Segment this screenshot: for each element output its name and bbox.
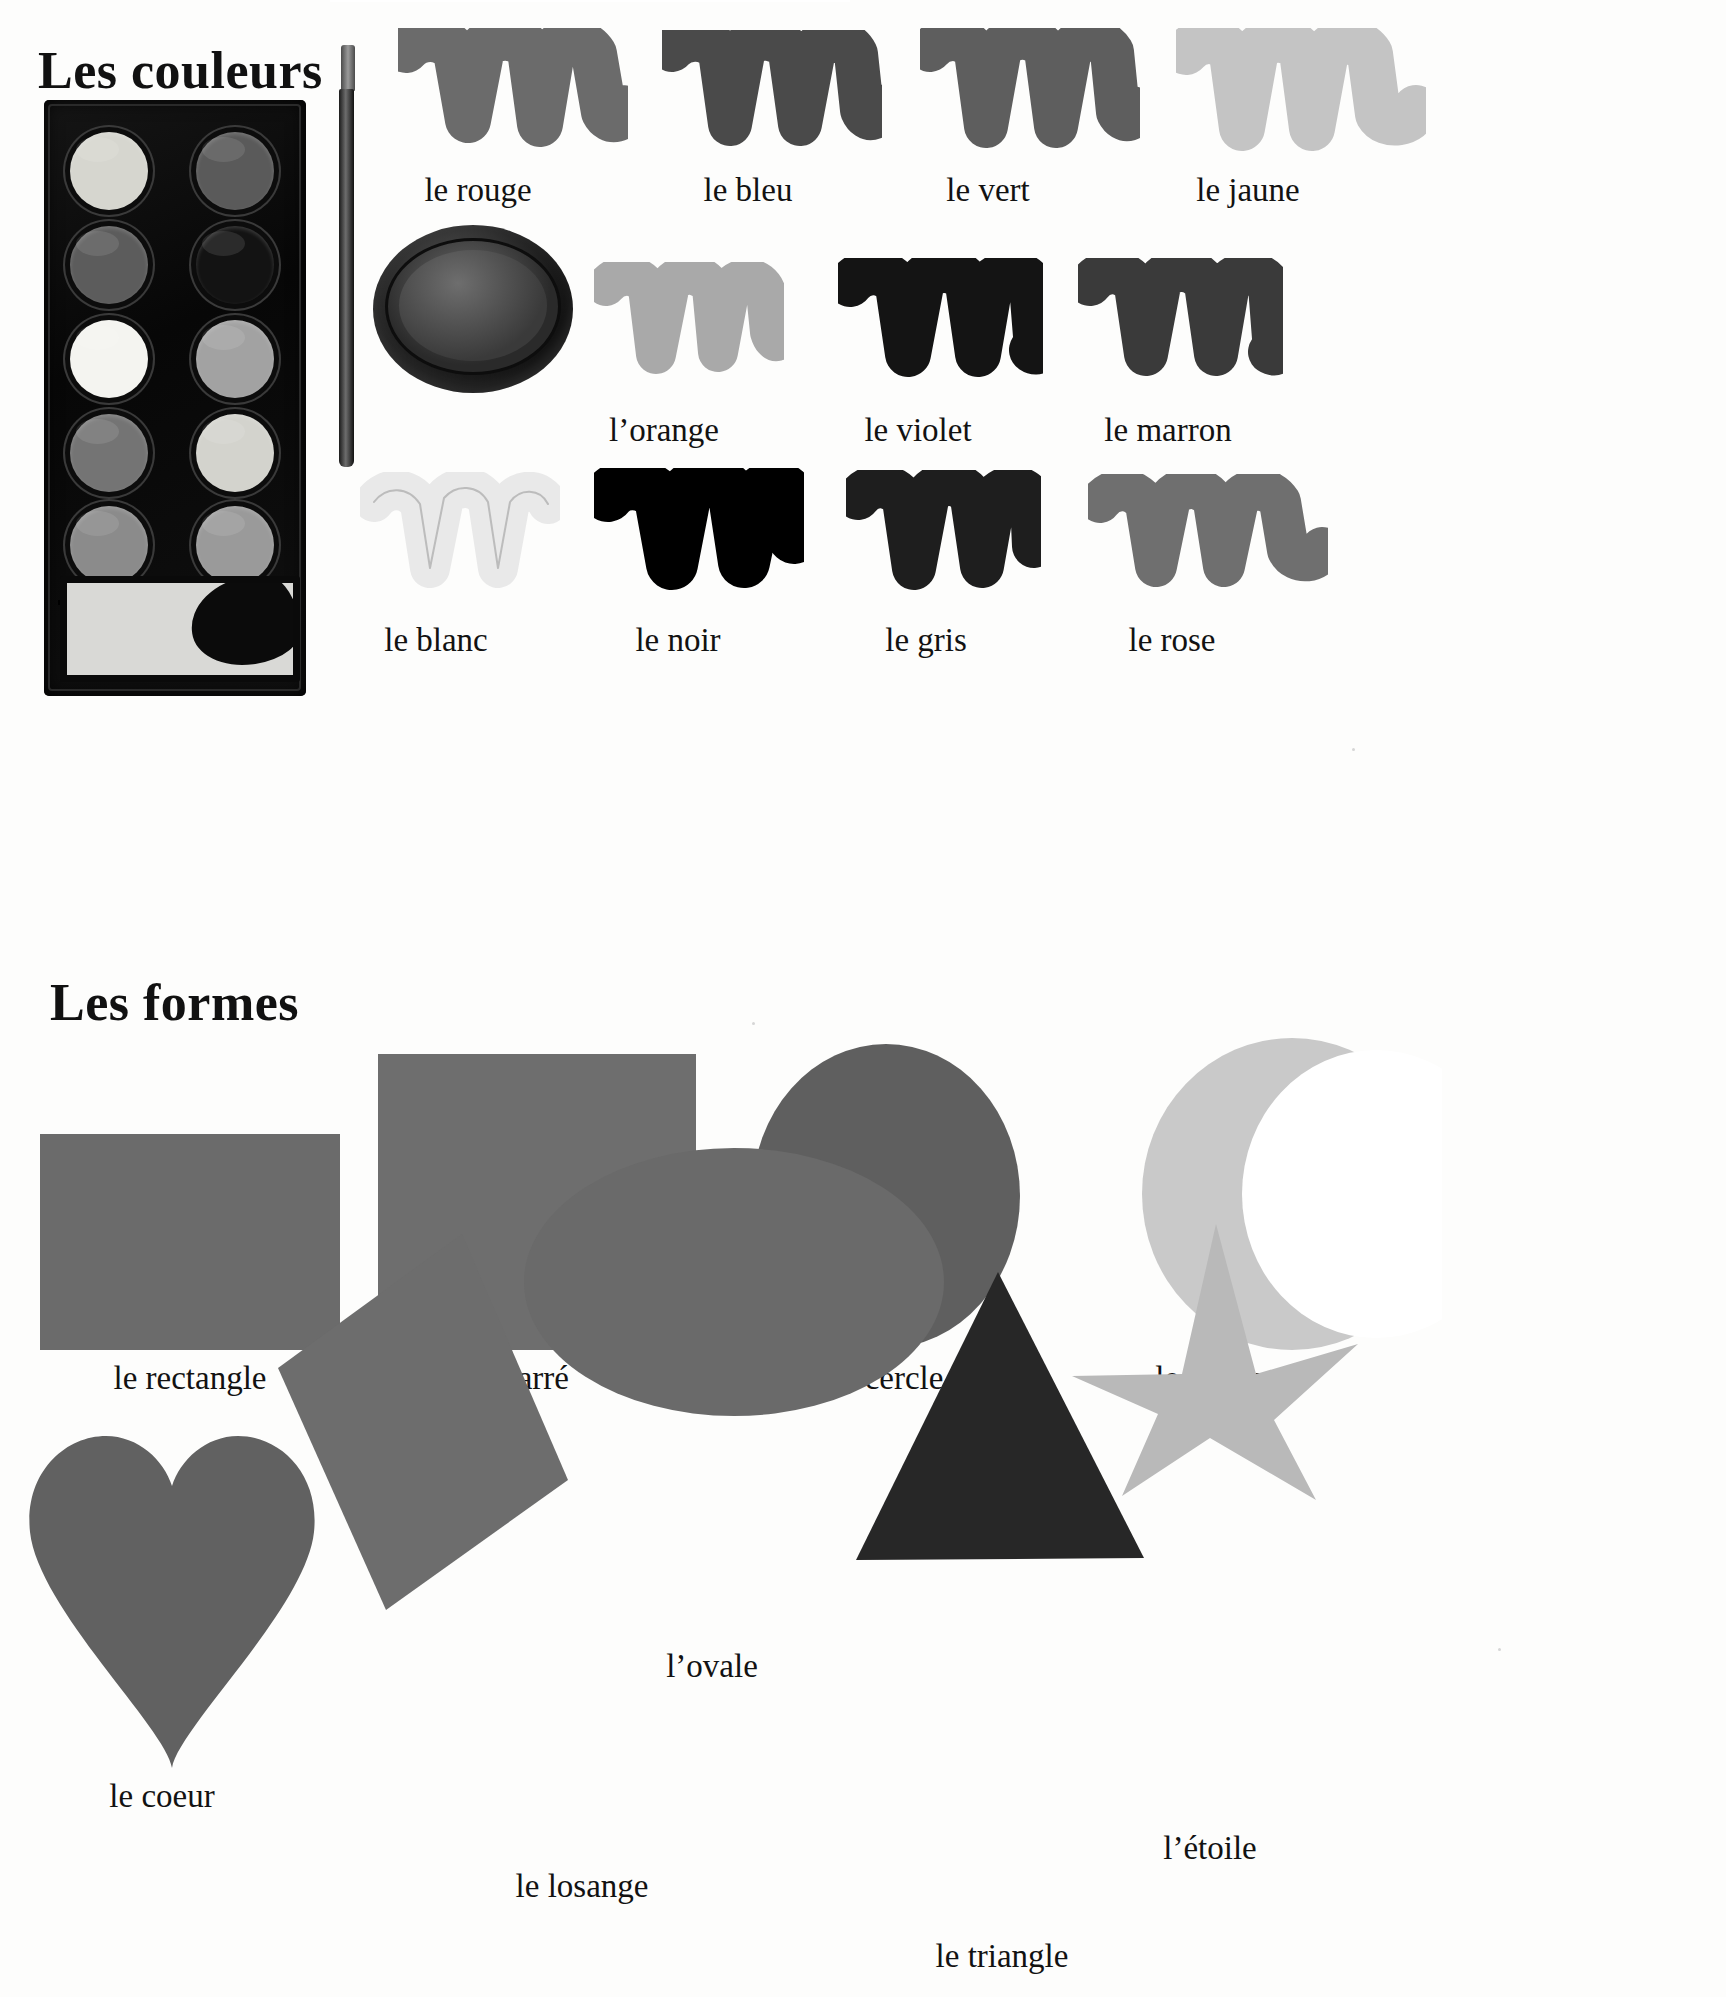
color-label-orange: l’orange [609,412,719,449]
color-swatch-marron [1078,258,1283,406]
scan-speck [1352,748,1355,751]
color-label-jaune: le jaune [1196,172,1300,209]
watercolor-palette [44,100,306,696]
color-swatch-vert [920,28,1140,178]
color-label-bleu: le bleu [704,172,793,209]
paint-pan [70,320,148,398]
paint-pot [373,225,573,393]
paint-pan [70,132,148,210]
section-heading-shapes: Les formes [50,973,299,1032]
paintbrush [330,45,364,465]
shape-star [1070,1224,1362,1504]
color-label-rose: le rose [1128,622,1215,659]
shape-label-losange: le losange [516,1868,649,1905]
paint-pan [70,414,148,492]
paint-pan [196,226,274,304]
color-swatch-gris [846,470,1041,610]
color-swatch-bleu [662,30,882,178]
color-swatch-rouge [398,28,628,178]
color-swatch-violet [838,258,1043,403]
brush-ferrule [341,45,355,91]
section-heading-colors: Les couleurs [38,41,323,100]
paint-pan [196,132,274,210]
color-swatch-blanc [360,472,560,607]
color-label-blanc: le blanc [384,622,488,659]
paint-pan [196,320,274,398]
color-swatch-noir [594,468,804,608]
color-label-marron: le marron [1104,412,1231,449]
paint-pan [196,414,274,492]
page-top-crop-artifact [330,0,850,2]
color-swatch-jaune [1176,28,1426,178]
paint-pan [70,506,148,584]
color-label-vert: le vert [946,172,1029,209]
color-swatch-rose [1088,474,1328,614]
worksheet-page: Les couleurs [0,0,1726,1997]
paint-pan [196,506,274,584]
color-label-gris: le gris [885,622,967,659]
shape-label-coeur: le coeur [109,1778,214,1815]
color-swatch-orange [594,262,784,402]
scan-speck [752,1022,755,1025]
shape-label-triangle: le triangle [936,1938,1069,1975]
shape-label-etoile: l’étoile [1163,1830,1256,1867]
paint-pan [70,226,148,304]
shape-label-ovale: l’ovale [666,1648,758,1685]
brush-handle [339,89,354,467]
shape-label-rectangle: le rectangle [114,1360,267,1397]
scan-speck [1498,1648,1501,1651]
paint-blot [185,576,300,672]
color-label-rouge: le rouge [424,172,531,209]
color-label-violet: le violet [864,412,971,449]
paint-pot-paint [399,250,547,361]
color-label-noir: le noir [635,622,720,659]
palette-mixing-tray [60,576,300,682]
